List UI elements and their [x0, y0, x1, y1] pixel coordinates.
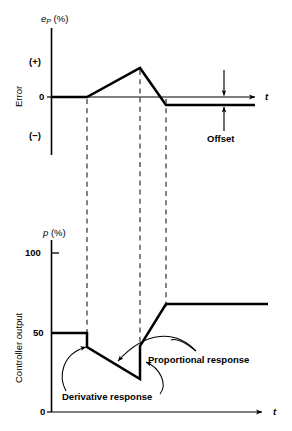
derivative-leader-right	[146, 362, 163, 394]
top-tick-positive: (+)	[29, 57, 41, 67]
top-x-axis-label: t	[265, 92, 268, 102]
controller-output-curve	[52, 304, 269, 379]
bottom-tick-50: 50	[33, 328, 44, 338]
bottom-tick-100: 100	[25, 248, 41, 258]
event-dashed-lines	[87, 70, 166, 348]
top-tick-negative: (−)	[29, 131, 41, 141]
derivative-response-label: Derivative response	[62, 392, 152, 402]
bottom-tick-0: 0	[40, 407, 45, 417]
derivative-leader-left	[62, 347, 86, 391]
pd-controller-response-figure: eP (%) Error (+) 0 (−) t Offset p (%) Co…	[0, 0, 292, 431]
bottom-chart-axes	[47, 240, 262, 412]
proportional-response-label: Proportional response	[148, 355, 249, 365]
bottom-y-axis-label: Controller output	[14, 313, 24, 383]
figure-canvas	[0, 0, 292, 431]
top-tick-zero: 0	[39, 92, 44, 102]
top-y-axis-title: eP (%)	[41, 14, 68, 25]
bottom-y-axis-title: p (%)	[43, 228, 66, 238]
offset-label: Offset	[207, 134, 234, 144]
bottom-x-axis-label: t	[273, 407, 276, 417]
top-y-axis-label: Error	[14, 86, 24, 107]
